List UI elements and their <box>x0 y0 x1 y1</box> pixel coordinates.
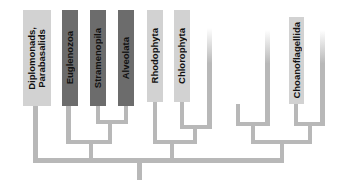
main-node-bar <box>33 158 284 163</box>
branch-euglenozoa <box>66 106 71 144</box>
taxon-label: Diplomonads, Parabasalids <box>27 27 47 90</box>
unlabeled-lineage-branch <box>265 30 270 126</box>
taxon-label: Alveolata <box>121 37 131 79</box>
branch-diplomonads <box>33 106 38 163</box>
taxon-rhodophyta: Rhodophyta <box>147 10 163 102</box>
taxon-stramenopila: Stramenopila <box>90 10 106 106</box>
taxon-chlorophyta: Chlorophyta <box>174 10 190 102</box>
taxon-alveolata: Alveolata <box>118 10 134 106</box>
unlabeled-lineage-branch <box>207 28 212 129</box>
taxon-choanoflagellida: Choanoflagellida <box>289 17 304 104</box>
unlabeled-lineage-branch <box>320 30 325 126</box>
node-rhodo-green <box>153 140 197 144</box>
taxon-label: Euglenozoa <box>65 31 75 84</box>
taxon-label: Rhodophyta <box>150 28 160 83</box>
taxon-euglenozoa: Euglenozoa <box>62 10 78 106</box>
taxon-diplomonads-parabasalids: Diplomonads, Parabasalids <box>23 10 51 106</box>
taxon-label: Choanoflagellida <box>292 22 302 99</box>
branch-rhodophyta <box>153 102 157 144</box>
taxon-label: Stramenopila <box>93 28 103 88</box>
node-stramenopila-alveolata <box>96 120 128 124</box>
root-branch <box>137 158 142 180</box>
taxon-label: Chlorophyta <box>177 28 187 84</box>
